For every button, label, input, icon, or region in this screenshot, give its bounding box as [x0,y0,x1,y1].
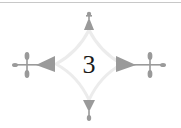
right-fleuron-icon [116,52,166,78]
left-fleuron-icon [12,52,55,78]
page-number: 3 [74,48,104,82]
top-fleuron-icon [84,12,94,30]
bottom-fleuron-icon [83,100,95,121]
